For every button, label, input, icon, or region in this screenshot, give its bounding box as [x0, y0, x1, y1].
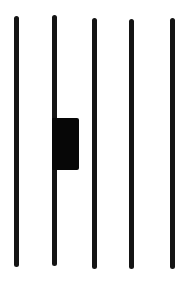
vertical-stroke-1 — [14, 16, 19, 267]
vertical-stroke-3 — [92, 18, 97, 269]
rectangular-block — [52, 118, 79, 170]
vertical-stroke-5 — [170, 18, 175, 269]
figure-canvas — [0, 0, 183, 282]
vertical-stroke-4 — [129, 19, 134, 269]
